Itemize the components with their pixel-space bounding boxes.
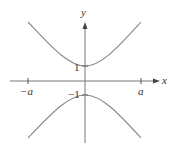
x-axis-label: x [161, 74, 167, 86]
x-axis-arrow-icon [153, 79, 160, 84]
y-axis-label: y [80, 6, 86, 18]
y-axis-arrow-icon [83, 22, 88, 29]
hyperbola-diagram: y x −a a 1 −1 [0, 0, 174, 150]
y-mark-label-neg1: −1 [68, 88, 80, 100]
tick-label-a: a [138, 85, 144, 97]
tick-label-neg-a: −a [20, 85, 33, 97]
y-mark-label-1: 1 [74, 61, 80, 73]
